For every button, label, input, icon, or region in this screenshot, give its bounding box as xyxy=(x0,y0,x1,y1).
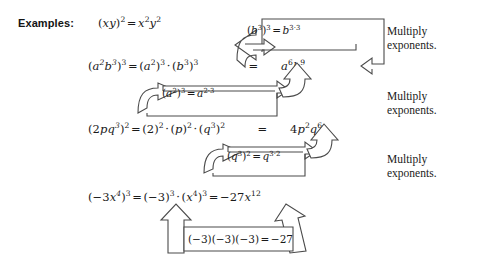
note-line-1: Multiply xyxy=(387,153,437,167)
callout-arrow-neg3 xyxy=(160,203,320,255)
note-multiply-exponents-1: Multiply exponents. xyxy=(387,25,437,52)
equation-row-2-equals: = xyxy=(247,59,260,73)
callout-arrow-a2 xyxy=(125,73,325,125)
callout-text-a2: (a2)3=a2·3 xyxy=(162,87,214,99)
equation-row-3: (2pq3)2=(2)2·(p)2·(q3)2 xyxy=(88,122,225,136)
note-line-2: exponents. xyxy=(387,39,437,53)
note-multiply-exponents-3: Multiply exponents. xyxy=(387,153,437,180)
callout-text-b3: (b3)3=b3·3 xyxy=(247,24,300,36)
callout-text-q3: (q3)2=q3·2 xyxy=(227,150,280,162)
examples-label: Examples: xyxy=(18,17,74,29)
note-multiply-exponents-2: Multiply exponents. xyxy=(387,90,437,117)
note-line-1: Multiply xyxy=(387,90,437,104)
callout-text-neg3: (−3)(−3)(−3)=−27 xyxy=(188,233,293,245)
equation-row-4: (−3x4)3=(−3)3·(x4)3=−27x12 xyxy=(88,190,261,204)
note-line-2: exponents. xyxy=(387,167,437,181)
note-line-1: Multiply xyxy=(387,25,437,39)
equation-row-2: (a2b3)3=(a2)3·(b3)3 xyxy=(88,59,198,73)
equation-row-3-equals: = xyxy=(256,122,269,136)
note-line-2: exponents. xyxy=(387,104,437,118)
worked-examples-figure: Examples: (xy)2=x2y2 (b3)3=b3·3 (a2b3)3=… xyxy=(0,0,491,259)
equation-row-1: (xy)2=x2y2 xyxy=(98,16,161,30)
